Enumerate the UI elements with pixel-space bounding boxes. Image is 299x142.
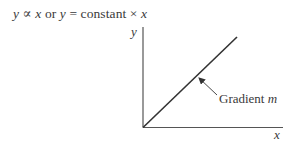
gradient-annotation: Gradient m bbox=[219, 91, 277, 107]
gradient-arrow bbox=[199, 78, 217, 95]
graph bbox=[0, 0, 299, 142]
x-axis-label: x bbox=[274, 127, 280, 142]
y-axis-label: y bbox=[131, 24, 137, 40]
gradient-symbol: m bbox=[268, 91, 277, 106]
proportional-line bbox=[143, 37, 237, 128]
gradient-text: Gradient bbox=[219, 91, 268, 106]
